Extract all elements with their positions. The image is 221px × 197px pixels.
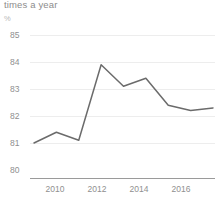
gridlines [30,35,215,143]
y-axis-tick-labels: 85 84 83 82 81 80 [10,30,20,175]
x-axis-tick-labels: 2010 2012 2014 2016 [46,184,191,194]
line-chart: times a year % 85 84 83 82 81 80 2010 20… [0,0,221,197]
xtick-label-2016: 2016 [172,184,191,194]
ytick-label-80: 80 [10,165,20,175]
xtick-label-2014: 2014 [130,184,149,194]
ytick-label-84: 84 [10,57,20,67]
xtick-label-2012: 2012 [88,184,107,194]
ytick-label-82: 82 [10,111,20,121]
plot-area: 85 84 83 82 81 80 2010 2012 2014 2016 [0,0,221,197]
data-series-line [34,65,213,143]
ytick-label-85: 85 [10,30,20,40]
ytick-label-81: 81 [10,138,20,148]
ytick-label-83: 83 [10,84,20,94]
xtick-label-2010: 2010 [46,184,65,194]
